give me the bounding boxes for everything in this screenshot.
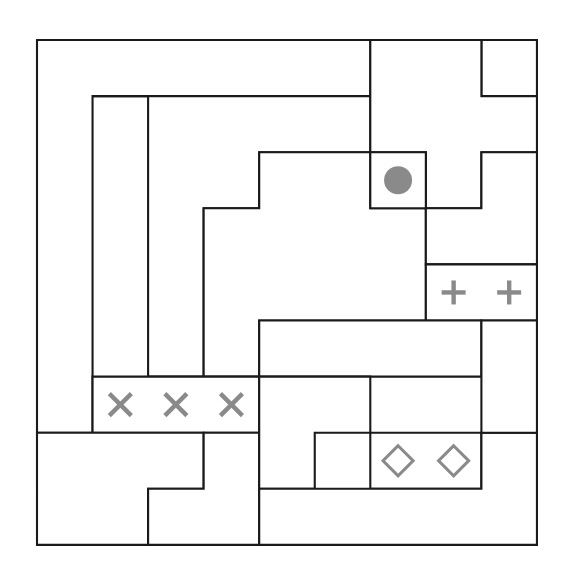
filled-circle-icon	[384, 166, 412, 194]
right-side-strip-region[interactable]	[481, 321, 537, 433]
region-partition-grid[interactable]	[0, 0, 566, 582]
mid-band-region[interactable]	[259, 321, 481, 377]
lower-mid-region[interactable]	[259, 377, 370, 489]
diamond-pair-region[interactable]	[370, 433, 481, 489]
puzzle-stage	[0, 0, 566, 582]
